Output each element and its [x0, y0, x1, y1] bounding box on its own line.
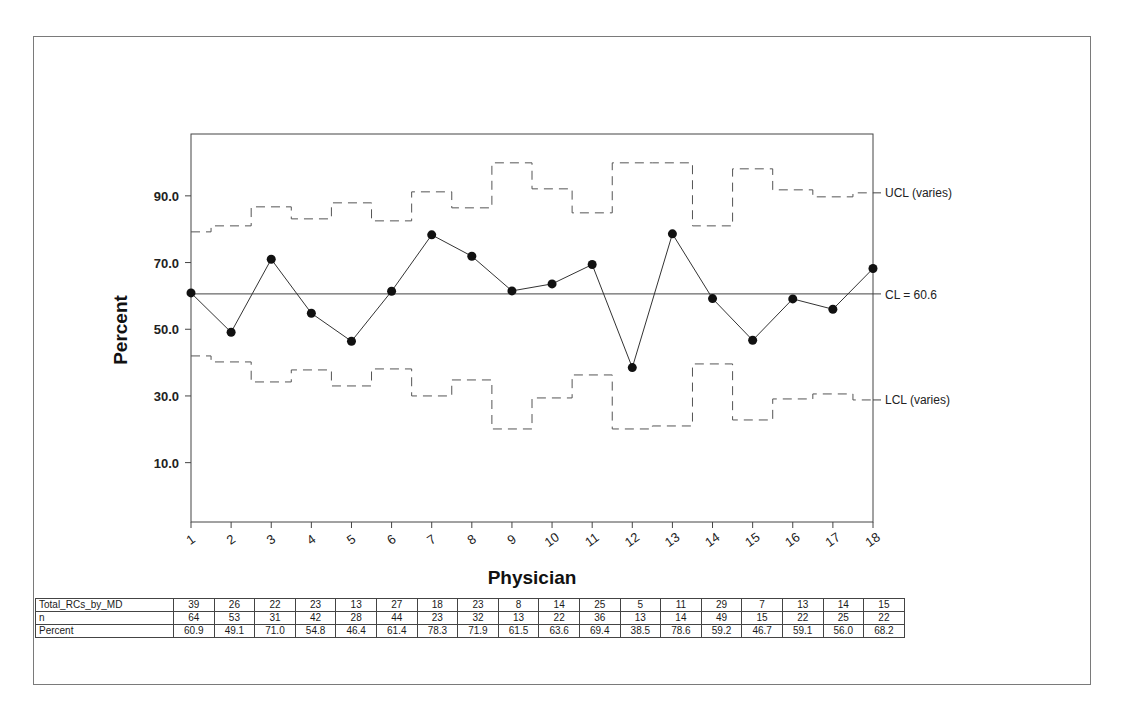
table-cell: 54.8	[295, 625, 336, 638]
x-tick-label: 7	[424, 531, 439, 547]
table-cell: 28	[336, 612, 377, 625]
table-cell: 14	[539, 599, 580, 612]
table-cell: 61.5	[498, 625, 539, 638]
table-cell: 59.1	[782, 625, 823, 638]
x-tick-label: 12	[622, 529, 642, 550]
table-cell: 13	[336, 599, 377, 612]
y-axis-title: Percent	[110, 294, 131, 364]
table-cell: 7	[742, 599, 783, 612]
table-cell: 13	[498, 612, 539, 625]
table-cell: 38.5	[620, 625, 661, 638]
x-tick-label: 15	[742, 529, 762, 550]
table-cell: 25	[823, 612, 864, 625]
x-tick-label: 6	[384, 531, 399, 547]
data-point	[628, 363, 637, 372]
table-cell: 78.6	[661, 625, 702, 638]
row-header: n	[36, 612, 174, 625]
x-tick-label: 2	[224, 531, 239, 547]
table-cell: 71.9	[458, 625, 499, 638]
data-point	[507, 286, 516, 295]
table-cell: 29	[701, 599, 742, 612]
table-cell: 14	[823, 599, 864, 612]
table-cell: 15	[864, 599, 905, 612]
table-cell: 26	[214, 599, 255, 612]
percent-line	[191, 234, 873, 368]
data-point	[347, 337, 356, 346]
lcl-label: LCL (varies)	[885, 393, 950, 407]
x-tick-label: 9	[504, 531, 519, 547]
table-cell: 71.0	[255, 625, 296, 638]
row-header: Total_RCs_by_MD	[36, 599, 174, 612]
table-row: Percent60.949.171.054.846.461.478.371.96…	[36, 625, 905, 638]
ucl-line	[191, 163, 873, 232]
table-cell: 60.9	[174, 625, 215, 638]
table-cell: 49.1	[214, 625, 255, 638]
data-point	[788, 294, 797, 303]
data-point	[467, 252, 476, 261]
row-header: Percent	[36, 625, 174, 638]
table-cell: 5	[620, 599, 661, 612]
table-cell: 46.4	[336, 625, 377, 638]
table-cell: 44	[376, 612, 417, 625]
x-tick-label: 14	[702, 529, 722, 550]
data-point	[588, 260, 597, 269]
table-cell: 78.3	[417, 625, 458, 638]
data-point	[748, 336, 757, 345]
data-point	[668, 229, 677, 238]
table-cell: 39	[174, 599, 215, 612]
ucl-label: UCL (varies)	[885, 186, 952, 200]
table-cell: 22	[539, 612, 580, 625]
data-point	[387, 287, 396, 296]
data-point	[227, 328, 236, 337]
table-cell: 15	[742, 612, 783, 625]
x-axis-title: Physician	[488, 567, 577, 588]
x-tick-label: 5	[344, 531, 359, 547]
table-cell: 36	[579, 612, 620, 625]
y-tick-label: 50.0	[154, 322, 179, 337]
table-cell: 14	[661, 612, 702, 625]
data-point	[828, 305, 837, 314]
table-row: Total_RCs_by_MD3926222313271823814255112…	[36, 599, 905, 612]
plot-border	[191, 134, 873, 522]
table-cell: 31	[255, 612, 296, 625]
table-cell: 63.6	[539, 625, 580, 638]
table-cell: 27	[376, 599, 417, 612]
table-cell: 22	[864, 612, 905, 625]
y-tick-label: 30.0	[154, 389, 179, 404]
table-cell: 69.4	[579, 625, 620, 638]
y-tick-label: 90.0	[154, 189, 179, 204]
plot-area: 10.030.050.070.090.012345678910111213141…	[154, 134, 883, 550]
x-tick-label: 4	[304, 531, 319, 547]
table-cell: 61.4	[376, 625, 417, 638]
x-tick-label: 10	[542, 529, 562, 550]
control-chart: 10.030.050.070.090.012345678910111213141…	[0, 0, 1125, 600]
data-point	[187, 288, 196, 297]
x-tick-label: 8	[464, 531, 479, 547]
table-cell: 18	[417, 599, 458, 612]
table-cell: 11	[661, 599, 702, 612]
table-row: n645331422844233213223613144915222522	[36, 612, 905, 625]
table-cell: 13	[620, 612, 661, 625]
data-point	[267, 255, 276, 264]
x-tick-label: 18	[862, 529, 882, 550]
y-tick-label: 10.0	[154, 456, 179, 471]
x-tick-label: 1	[183, 531, 198, 547]
lcl-line	[191, 356, 873, 429]
table-cell: 22	[782, 612, 823, 625]
table-cell: 42	[295, 612, 336, 625]
table-cell: 64	[174, 612, 215, 625]
x-tick-label: 13	[662, 529, 682, 550]
data-point	[427, 230, 436, 239]
x-tick-label: 11	[582, 530, 602, 550]
table-cell: 59.2	[701, 625, 742, 638]
data-table: Total_RCs_by_MD3926222313271823814255112…	[35, 598, 905, 638]
table-cell: 23	[458, 599, 499, 612]
table-cell: 23	[417, 612, 458, 625]
x-tick-label: 16	[782, 529, 802, 550]
cl-label: CL = 60.6	[885, 288, 937, 302]
x-tick-label: 17	[822, 529, 842, 550]
table-cell: 13	[782, 599, 823, 612]
data-point	[708, 294, 717, 303]
table-cell: 56.0	[823, 625, 864, 638]
table-cell: 32	[458, 612, 499, 625]
